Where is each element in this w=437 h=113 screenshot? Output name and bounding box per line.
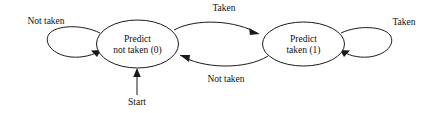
arc-top-path [174, 22, 259, 34]
self-loop-left-group [47, 27, 101, 57]
start-label: Start [128, 97, 146, 107]
start-arrow-group [133, 68, 141, 95]
state-0-ellipse [97, 20, 179, 68]
branch-predictor-state-diagram: Predict not taken (0) Predict taken (1) … [0, 0, 437, 113]
self-loop-left-path [47, 27, 101, 57]
edge-label-arc-bottom: Not taken [207, 74, 244, 84]
edge-label-self-loop-left: Not taken [27, 16, 64, 26]
edge-label-arc-top: Taken [212, 3, 235, 13]
state-1-ellipse [263, 22, 345, 66]
arc-top-arrowhead [249, 28, 259, 35]
state-1-label-line1: Predict [290, 34, 317, 44]
self-loop-right-path [341, 28, 392, 58]
arc-bottom-path [180, 55, 268, 66]
state-1-label-line2: taken (1) [286, 45, 320, 56]
start-arrowhead [133, 68, 141, 77]
arc-top-group [174, 22, 259, 35]
state-node-predict-not-taken[interactable]: Predict not taken (0) [97, 20, 179, 68]
state-0-label-line2: not taken (0) [113, 45, 162, 56]
arc-bottom-arrowhead [180, 55, 190, 62]
edge-label-self-loop-right: Taken [392, 17, 415, 27]
state-node-predict-taken[interactable]: Predict taken (1) [263, 22, 345, 66]
state-machine-canvas: Predict not taken (0) Predict taken (1) … [0, 0, 437, 113]
self-loop-right-group [340, 28, 392, 58]
arc-bottom-group [180, 55, 268, 66]
state-0-label-line1: Predict [124, 34, 151, 44]
